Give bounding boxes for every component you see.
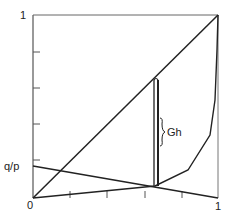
q-over-p-label: q/p [4, 160, 19, 172]
q-over-p-line [33, 166, 218, 198]
diagram-canvas: 1 0 1 q/p Gh [0, 0, 229, 216]
y-top-label: 1 [20, 9, 26, 21]
x-right-label: 1 [215, 200, 221, 212]
brace-icon [160, 118, 165, 146]
gh-top-cap [154, 79, 158, 81]
origin-label: 0 [27, 199, 33, 211]
gh-label: Gh [167, 126, 182, 138]
y-axis-ticks [33, 52, 40, 160]
